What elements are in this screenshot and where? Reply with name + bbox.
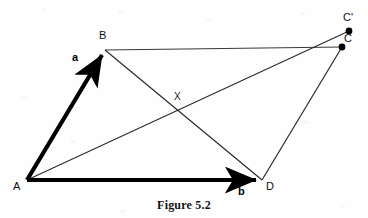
vertex-label-D: D (266, 181, 274, 192)
vector-label-b: b (238, 186, 245, 197)
segment-D-to-C (262, 47, 342, 180)
segment-B-to-D (105, 50, 262, 180)
geometry-drawing (0, 0, 368, 218)
segment-B-to-C (105, 47, 342, 50)
figure-caption: Figure 5.2 (0, 198, 368, 213)
vertex-label-C: C (344, 33, 352, 44)
figure-container: A B C C' D X a b Figure 5.2 (0, 0, 368, 218)
point-dot-C (339, 44, 346, 51)
vector-a-segment-A-to-B (27, 55, 102, 180)
vector-label-a: a (72, 52, 78, 63)
point-label-X: X (174, 92, 181, 102)
vertex-label-C-prime: C' (343, 12, 353, 23)
vertex-label-A: A (13, 181, 20, 192)
vertex-label-B: B (99, 30, 106, 41)
